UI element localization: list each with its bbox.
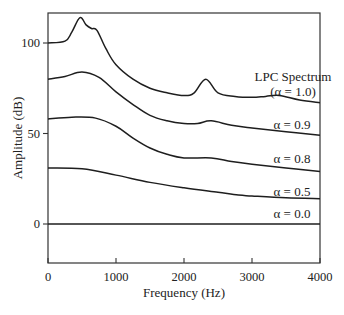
label-lpc-spectrum: LPC Spectrum	[255, 69, 332, 84]
x-tick-label: 2000	[172, 270, 197, 284]
y-tick-label: 0	[34, 217, 40, 231]
label-alpha-0-5: α = 0.5	[274, 184, 311, 199]
x-axis-title: Frequency (Hz)	[143, 285, 225, 300]
x-tick-label: 0	[45, 270, 51, 284]
x-tick-label: 3000	[240, 270, 265, 284]
label-alpha-0-0: α = 0.0	[274, 206, 311, 221]
y-axis-title: Amplitude (dB)	[10, 97, 25, 180]
x-tick-label: 4000	[308, 270, 333, 284]
y-tick-label: 50	[28, 127, 41, 141]
lpc-spectrum-chart: 01000200030004000050100 LPC Spectrum(α =…	[0, 0, 344, 315]
label-lpc-spectrum: (α = 1.0)	[270, 84, 316, 99]
plot-frame	[48, 13, 320, 263]
y-tick-label: 100	[21, 36, 40, 50]
label-alpha-0-8: α = 0.8	[274, 151, 311, 166]
x-tick-label: 1000	[104, 270, 129, 284]
label-alpha-0-9: α = 0.9	[274, 117, 311, 132]
